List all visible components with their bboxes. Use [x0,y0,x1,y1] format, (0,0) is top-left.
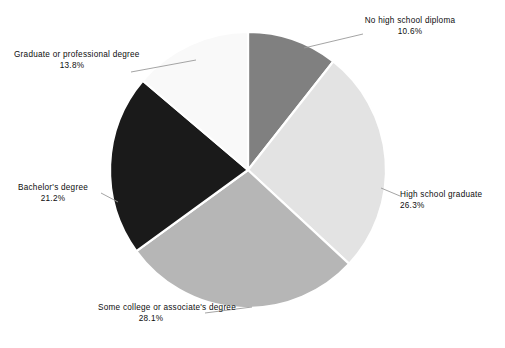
pie-value-bachelors-degree: 21.2% [4,194,102,205]
pie-label-line2-some-college-or-associates-degree: associate's degree [163,303,236,312]
pie-chart: No high school diploma 10.6% High school… [0,0,505,348]
pie-label-line1-no-high-school-diploma: No high school [365,16,423,25]
pie-value-no-high-school-diploma: 10.6% [362,27,458,38]
pie-label-graduate-or-professional-degree: Graduate or professional degree 13.8% [14,50,130,71]
pie-label-some-college-or-associates-degree: Some college or associate's degree 28.1% [98,303,204,324]
pie-label-line1-graduate-or-professional-degree: Graduate or [14,50,60,59]
pie-label-high-school-graduate: High school graduate 26.3% [400,190,504,211]
pie-label-no-high-school-diploma: No high school diploma 10.6% [362,16,458,37]
pie-label-line1-some-college-or-associates-degree: Some college or [98,303,161,312]
pie-label-line1-bachelors-degree: Bachelor's degree [18,183,88,192]
pie-value-graduate-or-professional-degree: 13.8% [14,61,130,72]
pie-label-line1-high-school-graduate: High school graduate [400,190,482,199]
pie-label-bachelors-degree: Bachelor's degree 21.2% [4,183,102,204]
pie-label-line2-graduate-or-professional-degree: professional degree [63,50,140,59]
pie-label-line2-no-high-school-diploma: diploma [425,16,455,25]
leader-line-no-high-school-diploma [304,34,363,48]
pie-value-some-college-or-associates-degree: 28.1% [98,314,204,325]
pie-value-high-school-graduate: 26.3% [400,201,504,212]
